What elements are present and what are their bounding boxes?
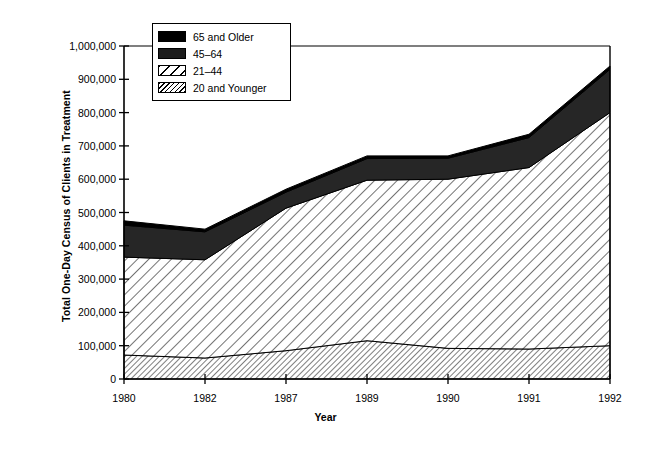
- x-tick-label: 1989: [337, 392, 397, 404]
- black-solid-swatch-icon: [158, 31, 186, 42]
- legend-item-label: 65 and Older: [193, 31, 254, 43]
- x-tick-label: 1982: [175, 392, 235, 404]
- sparse-hatch-swatch-icon: [158, 65, 186, 76]
- x-axis-tick-labels: 1980198219871989199019911992: [0, 392, 651, 412]
- stacked-area-chart: Total One-Day Census of Clients in Treat…: [0, 0, 651, 455]
- x-axis-title: Year: [0, 411, 651, 423]
- x-tick-label: 1980: [94, 392, 154, 404]
- x-tick-label: 1992: [580, 392, 640, 404]
- x-tick-label: 1990: [418, 392, 478, 404]
- x-tick-label: 1987: [256, 392, 316, 404]
- data-bands: [124, 66, 610, 379]
- legend: 65 and Older 45–64 21–44 20 and Younger: [152, 23, 291, 101]
- dark-solid-swatch-icon: [158, 48, 186, 59]
- x-tick-label: 1991: [499, 392, 559, 404]
- legend-item-label: 20 and Younger: [193, 82, 267, 94]
- legend-item-label: 45–64: [193, 48, 222, 60]
- legend-item-label: 21–44: [193, 65, 222, 77]
- plot-area: [0, 0, 651, 455]
- legend-item: 45–64: [158, 45, 285, 62]
- dense-hatch-swatch-icon: [158, 82, 186, 93]
- legend-item: 21–44: [158, 62, 285, 79]
- legend-item: 65 and Older: [158, 28, 285, 45]
- legend-item: 20 and Younger: [158, 79, 285, 96]
